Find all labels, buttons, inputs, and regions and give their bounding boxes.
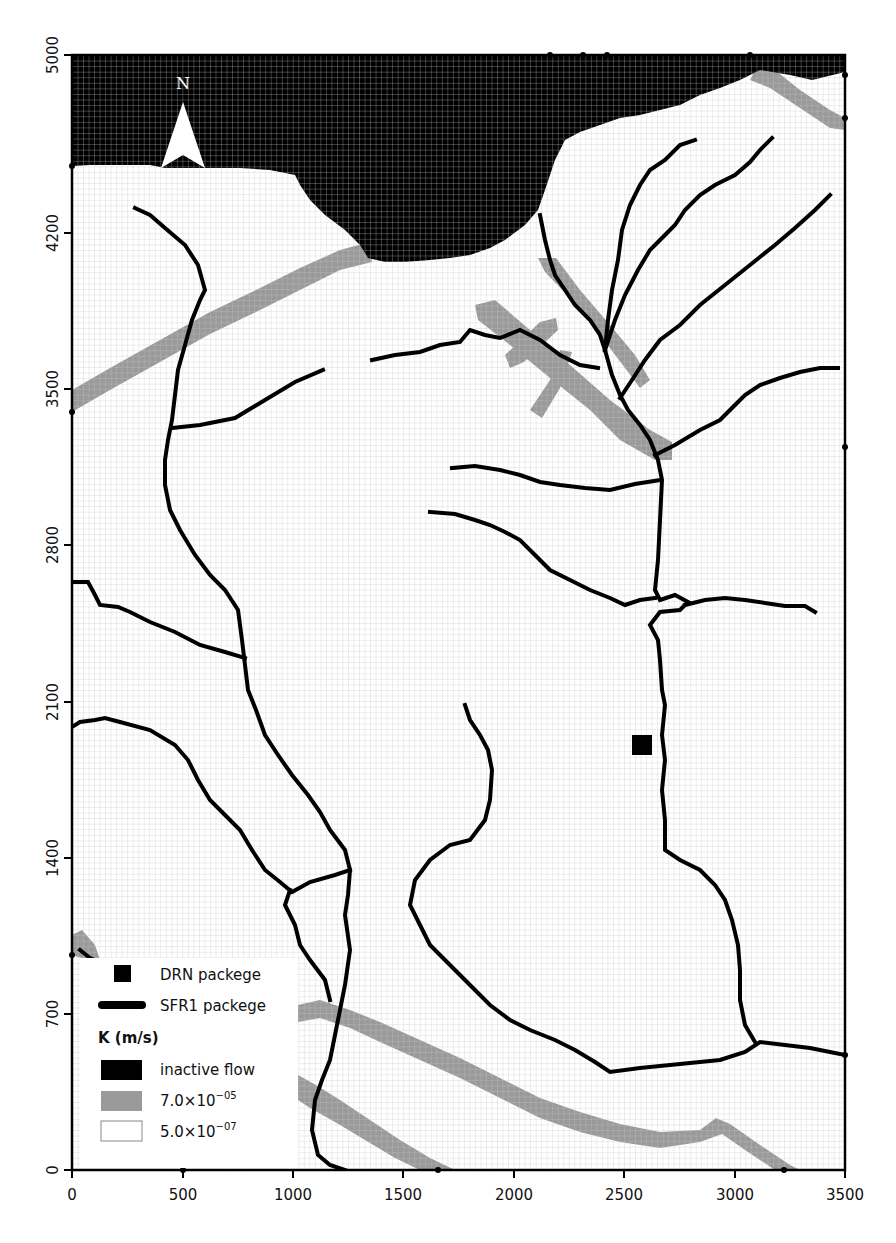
x-tick-3000: 3000 xyxy=(716,1186,754,1204)
y-tick-700: 700 xyxy=(44,1000,62,1029)
y-tick-1400: 1400 xyxy=(44,839,62,877)
legend-highk-swatch xyxy=(101,1091,142,1111)
legend-k-title: K (m/s) xyxy=(98,1029,159,1047)
x-axis-labels: 0 500 1000 1500 2000 2500 3000 3500 xyxy=(67,1186,864,1204)
y-tick-4200: 4200 xyxy=(44,214,62,252)
model-grid-map: N 5000 4200 3500 2800 2100 1400 700 0 0 … xyxy=(0,0,896,1243)
drn-cell xyxy=(632,735,652,755)
north-label: N xyxy=(176,74,190,93)
legend-drn-label: DRN packege xyxy=(160,966,261,984)
y-tick-3500: 3500 xyxy=(44,370,62,408)
legend-inactive-swatch xyxy=(101,1060,142,1080)
legend: DRN packege SFR1 packege K (m/s) inactiv… xyxy=(80,958,298,1168)
y-tick-0: 0 xyxy=(44,1165,62,1175)
y-tick-2100: 2100 xyxy=(44,683,62,721)
y-tick-2800: 2800 xyxy=(44,526,62,564)
legend-drn-symbol xyxy=(114,965,131,982)
x-tick-3500: 3500 xyxy=(826,1186,864,1204)
x-tick-0: 0 xyxy=(67,1186,77,1204)
legend-lowk-swatch xyxy=(101,1121,142,1141)
x-tick-500: 500 xyxy=(169,1186,198,1204)
x-tick-1000: 1000 xyxy=(274,1186,312,1204)
x-tick-1500: 1500 xyxy=(384,1186,422,1204)
y-tick-5000: 5000 xyxy=(44,36,62,74)
legend-sfr1-label: SFR1 packege xyxy=(160,997,266,1015)
y-axis-labels: 5000 4200 3500 2800 2100 1400 700 0 xyxy=(44,36,62,1175)
legend-inactive-label: inactive flow xyxy=(160,1061,255,1079)
x-tick-2500: 2500 xyxy=(605,1186,643,1204)
x-tick-2000: 2000 xyxy=(495,1186,533,1204)
